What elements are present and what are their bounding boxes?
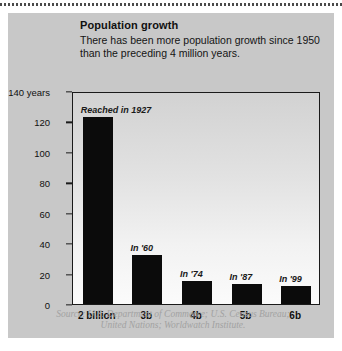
chart-title: Population growth	[80, 19, 178, 31]
y-axis-tick-label: 40	[39, 239, 50, 250]
y-axis-tick-label: 140 years	[8, 87, 50, 98]
bar	[83, 117, 113, 304]
bar-annotation: In '60	[130, 243, 153, 253]
bar	[182, 281, 212, 304]
y-axis-tick-label: 80	[39, 178, 50, 189]
bar-annotation: In '87	[230, 272, 253, 282]
population-growth-figure: Population growth There has been more po…	[0, 0, 342, 351]
source-citation: Source: U.S. Department of Commerce; U.S…	[48, 309, 298, 331]
bar	[281, 286, 311, 304]
bar-annotation: Reached in 1927	[81, 105, 152, 115]
bar-annotation: In '99	[279, 274, 302, 284]
y-axis-tick-label: 100	[34, 147, 50, 158]
y-axis-tick-label: 20	[39, 269, 50, 280]
bar	[132, 255, 162, 304]
y-axis-tick-label: 120	[34, 117, 50, 128]
bar-annotation: In '74	[180, 269, 203, 279]
chart-panel: Population growth There has been more po…	[8, 13, 334, 338]
top-dotted-rule	[0, 3, 342, 6]
chart-subtitle: There has been more population growth si…	[80, 34, 330, 59]
bar	[232, 284, 262, 304]
y-axis-tick-label: 60	[39, 208, 50, 219]
plot-area: Reached in 1927In '60In '74In '87In '99	[72, 92, 320, 305]
